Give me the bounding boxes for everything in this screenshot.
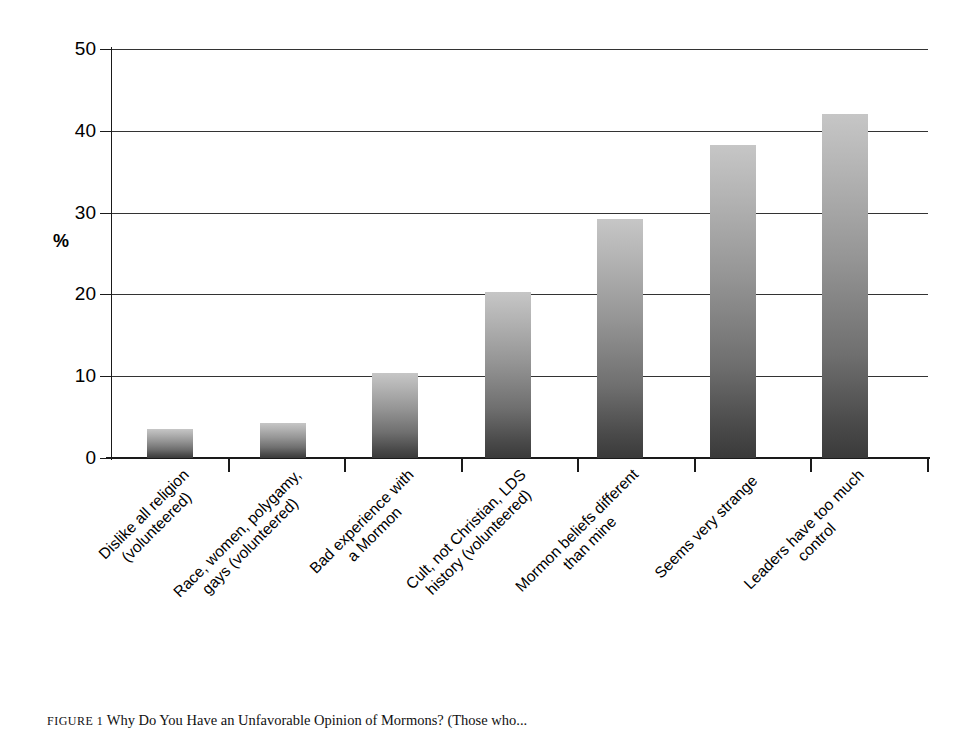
x-tick-mark	[461, 458, 463, 472]
bar	[822, 114, 868, 458]
y-tick-label-wrap: 30	[0, 203, 96, 222]
category-label: Seems very strange	[651, 472, 761, 582]
y-tick-label-wrap: 0	[0, 448, 96, 467]
y-tick-label: 40	[50, 121, 96, 140]
y-tick-label-wrap: 50	[0, 39, 96, 58]
x-tick-mark	[577, 458, 579, 472]
caption-text: Why Do You Have an Unfavorable Opinion o…	[107, 712, 527, 728]
y-tick-label: 20	[50, 284, 96, 303]
x-tick-mark	[927, 458, 929, 472]
x-tick-mark	[810, 458, 812, 472]
y-tick-label-wrap: 10	[0, 366, 96, 385]
y-axis-title: %	[53, 232, 69, 250]
y-tick-label: 30	[50, 203, 96, 222]
bar	[147, 429, 193, 458]
figure-number: FIGURE 1	[47, 714, 103, 728]
bar	[710, 145, 756, 458]
y-tick-label-wrap: 40	[0, 121, 96, 140]
y-tick-label-wrap: 20	[0, 284, 96, 303]
category-label: Leaders have too much control	[740, 466, 879, 605]
bar	[372, 373, 418, 458]
bar	[260, 423, 306, 458]
y-tick-label: 10	[50, 366, 96, 385]
bar	[485, 292, 531, 458]
x-tick-mark	[228, 458, 230, 472]
plot-area	[112, 49, 928, 458]
x-tick-mark	[344, 458, 346, 472]
x-tick-mark	[694, 458, 696, 472]
category-label: Dislike all religion (volunteered)	[95, 466, 204, 575]
bar	[597, 219, 643, 458]
figure-caption: FIGURE 1 Why Do You Have an Unfavorable …	[47, 712, 947, 730]
y-tick-label: 50	[50, 39, 96, 58]
y-tick-label: 0	[50, 448, 96, 467]
